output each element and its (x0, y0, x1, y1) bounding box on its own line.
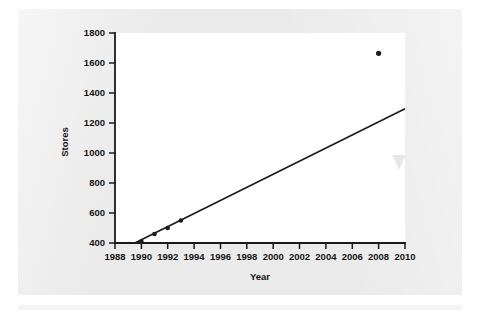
x-tick-label-1988: 1988 (104, 251, 125, 262)
x-tick-label-2004: 2004 (315, 251, 337, 262)
x-axis-title: Year (250, 271, 270, 282)
x-tick-label-1998: 1998 (236, 251, 257, 262)
x-axis-tick-labels: 1988 1990 1992 1994 1996 1998 2000 2002 … (104, 251, 415, 262)
scatter-chart-figure: 1800 1600 1400 1200 1000 800 600 400 Sto… (0, 0, 481, 316)
plot-area-background (115, 33, 405, 243)
y-tick-label-1200: 1200 (84, 117, 105, 128)
data-point-1990 (139, 239, 144, 244)
y-tick-label-800: 800 (89, 177, 105, 188)
data-point-2008-outlier (376, 51, 381, 56)
x-tick-label-2000: 2000 (263, 251, 284, 262)
x-tick-label-1990: 1990 (131, 251, 152, 262)
y-tick-label-400: 400 (89, 237, 105, 248)
y-axis: 1800 1600 1400 1200 1000 800 600 400 Sto… (59, 27, 115, 248)
y-tick-label-1800: 1800 (84, 27, 105, 38)
y-axis-tick-labels: 1800 1600 1400 1200 1000 800 600 400 (84, 27, 105, 248)
screenshot-root: 1800 1600 1400 1200 1000 800 600 400 Sto… (0, 0, 481, 316)
y-tick-label-1000: 1000 (84, 147, 105, 158)
x-tick-label-2002: 2002 (289, 251, 310, 262)
data-point-1991 (152, 232, 157, 237)
y-axis-title: Stores (59, 127, 70, 157)
x-tick-label-2010: 2010 (394, 251, 415, 262)
data-point-1992 (165, 226, 170, 231)
x-tick-label-1992: 1992 (157, 251, 178, 262)
y-tick-label-600: 600 (89, 207, 105, 218)
data-point-1993 (179, 218, 184, 223)
x-axis: 1988 1990 1992 1994 1996 1998 2000 2002 … (104, 243, 415, 282)
x-tick-label-1996: 1996 (210, 251, 231, 262)
x-tick-label-2008: 2008 (368, 251, 389, 262)
x-tick-label-1994: 1994 (184, 251, 206, 262)
y-tick-label-1600: 1600 (84, 57, 105, 68)
x-tick-label-2006: 2006 (342, 251, 363, 262)
y-tick-label-1400: 1400 (84, 87, 105, 98)
